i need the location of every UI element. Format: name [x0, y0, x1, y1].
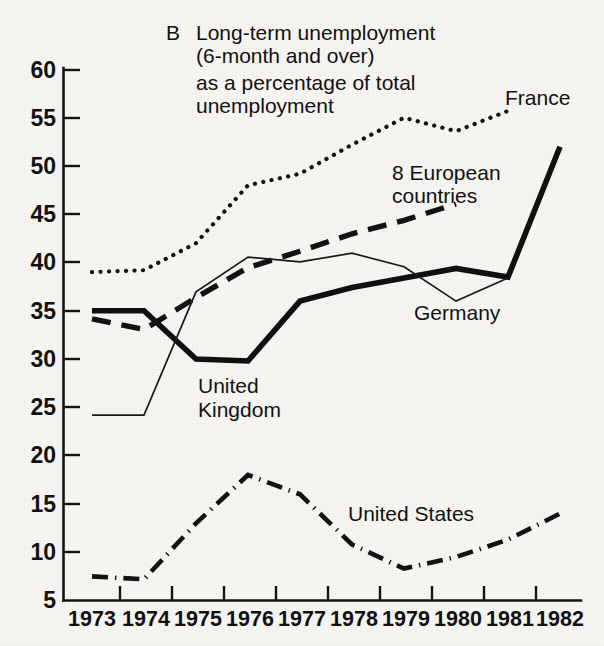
- x-tick-label-1977: 1977: [278, 607, 326, 631]
- x-tick-label-1975: 1975: [174, 607, 222, 631]
- title-line-3: as a percentage of total: [196, 71, 416, 94]
- axis-group: [64, 68, 582, 601]
- series-label-france: France: [505, 86, 570, 109]
- y-tick-group: 60 55 50 45 40 35 30 25 20 15 10 5: [30, 57, 80, 613]
- y-tick-label-50: 50: [30, 153, 56, 179]
- x-tick-label-1978: 1978: [330, 607, 378, 631]
- series-label-germany: Germany: [414, 301, 501, 324]
- x-tick-label-1980: 1980: [434, 607, 482, 631]
- series-line-united-states: [92, 475, 560, 579]
- y-tick-label-15: 15: [30, 491, 56, 517]
- series-label-8-european-countries-line2: countries: [392, 184, 477, 207]
- series-line-germany: [92, 253, 508, 415]
- series-label-united-states: United States: [348, 502, 474, 525]
- chart-page: 60 55 50 45 40 35 30 25 20 15 10 5 1973 …: [0, 0, 604, 646]
- chart-title-block: B Long-term unemployment (6-month and ov…: [166, 21, 435, 117]
- y-tick-label-40: 40: [30, 249, 56, 275]
- y-tick-label-30: 30: [30, 346, 56, 372]
- title-line-2: (6-month and over): [196, 44, 375, 67]
- panel-letter: B: [166, 21, 180, 44]
- x-tick-label-1981: 1981: [486, 607, 534, 631]
- y-tick-label-45: 45: [30, 201, 56, 227]
- x-tick-label-1974: 1974: [122, 607, 170, 631]
- x-tick-group: 1973 1974 1975 1976 1977 1978 1979 1980 …: [68, 586, 584, 631]
- x-tick-label-1973: 1973: [68, 607, 116, 631]
- x-tick-label-1982: 1982: [536, 607, 584, 631]
- y-tick-label-20: 20: [30, 442, 56, 468]
- x-tick-label-1979: 1979: [382, 607, 430, 631]
- series-label-united-kingdom-line2: Kingdom: [198, 398, 281, 421]
- y-tick-label-60: 60: [30, 57, 56, 83]
- y-tick-label-25: 25: [30, 394, 56, 420]
- series-annotations: France 8 European countries United Kingd…: [198, 86, 570, 525]
- y-tick-label-10: 10: [30, 539, 56, 565]
- title-line-1: Long-term unemployment: [196, 21, 435, 44]
- title-line-4: unemployment: [196, 94, 334, 117]
- y-tick-label-5: 5: [43, 587, 56, 613]
- series-label-united-kingdom-line1: United: [198, 374, 259, 397]
- y-tick-label-55: 55: [30, 105, 56, 131]
- y-tick-label-35: 35: [30, 298, 56, 324]
- x-tick-label-1976: 1976: [226, 607, 274, 631]
- series-label-8-european-countries-line1: 8 European: [392, 161, 501, 184]
- chart-canvas: 60 55 50 45 40 35 30 25 20 15 10 5 1973 …: [0, 0, 604, 646]
